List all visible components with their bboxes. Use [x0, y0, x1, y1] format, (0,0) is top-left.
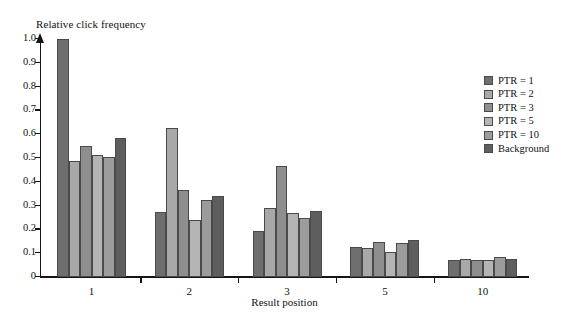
bar: [201, 200, 213, 277]
bar: [362, 248, 374, 277]
bar: [373, 242, 385, 277]
bar: [69, 161, 81, 277]
legend-label: PTR = 10: [498, 130, 539, 141]
x-axis-title: Result position: [40, 296, 529, 308]
chart-figure: Relative click frequency 00.10.20.30.40.…: [0, 0, 574, 323]
y-axis-tick-label: 0.4: [23, 176, 36, 187]
chart-legend: PTR = 1PTR = 2PTR = 3PTR = 5PTR = 10Back…: [484, 74, 549, 156]
bar: [155, 212, 167, 277]
bar: [92, 155, 104, 277]
bar: [396, 243, 408, 278]
y-axis-tick-label: 0.1: [23, 247, 36, 258]
bar: [385, 252, 397, 277]
bar: [189, 220, 201, 277]
bar: [460, 259, 472, 277]
bar: [287, 213, 299, 277]
y-axis-tick-label: 0: [31, 271, 36, 282]
legend-swatch: [484, 76, 493, 85]
legend-item: PTR = 1: [484, 74, 549, 88]
bar: [350, 247, 362, 277]
bar: [506, 259, 518, 277]
legend-item: PTR = 2: [484, 88, 549, 102]
x-axis-tick-mark: [434, 277, 435, 283]
x-axis-tick-mark: [336, 277, 337, 283]
y-axis-line: [40, 40, 41, 277]
legend-label: PTR = 1: [498, 76, 534, 87]
legend-label: PTR = 3: [498, 103, 534, 114]
legend-swatch: [484, 117, 493, 126]
legend-swatch: [484, 103, 493, 112]
y-axis-tick-label: 0.3: [23, 199, 36, 210]
legend-swatch: [484, 131, 493, 140]
bar: [103, 157, 115, 277]
legend-label: PTR = 2: [498, 89, 534, 100]
legend-item: PTR = 3: [484, 101, 549, 115]
y-axis-tick-label: 0.5: [23, 152, 36, 163]
y-axis-tick-label: 0.9: [23, 57, 36, 68]
bar: [253, 231, 265, 277]
bar: [408, 240, 420, 277]
plot-area: 00.10.20.30.40.50.60.70.80.91.0 123510: [40, 38, 529, 277]
y-axis-tick-label: 0.2: [23, 223, 36, 234]
y-axis-title: Relative click frequency: [36, 18, 146, 30]
y-axis-tick-label: 0.8: [23, 80, 36, 91]
legend-item: Background: [484, 142, 549, 156]
bar: [483, 260, 495, 277]
legend-label: Background: [498, 144, 549, 155]
bar: [276, 166, 288, 277]
bar: [166, 128, 178, 277]
legend-swatch: [484, 144, 493, 153]
x-axis-tick-mark: [238, 277, 239, 283]
legend-label: PTR = 5: [498, 116, 534, 127]
bar: [212, 196, 224, 277]
bar: [178, 190, 190, 277]
bar: [494, 257, 506, 277]
bar: [448, 260, 460, 277]
bar: [264, 208, 276, 277]
legend-item: PTR = 5: [484, 115, 549, 129]
bar: [57, 39, 69, 277]
y-axis-tick-label: 0.7: [23, 104, 36, 115]
x-axis-tick-mark: [140, 277, 141, 283]
bar: [80, 146, 92, 277]
legend-item: PTR = 10: [484, 128, 549, 142]
bar: [299, 218, 311, 277]
bar: [471, 260, 483, 277]
bar: [115, 138, 127, 277]
y-axis-tick-label: 0.6: [23, 128, 36, 139]
legend-swatch: [484, 90, 493, 99]
bar: [310, 211, 322, 277]
y-axis-tick-label: 1.0: [23, 33, 36, 44]
